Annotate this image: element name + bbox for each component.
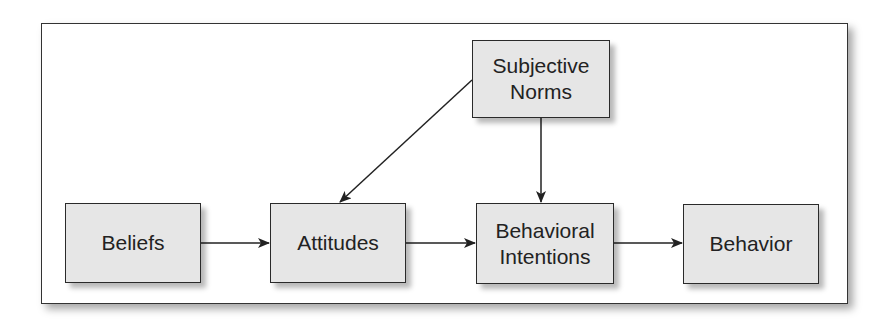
node-label: Beliefs (101, 230, 164, 256)
node-behavioral-intentions: Behavioral Intentions (476, 203, 614, 284)
node-subjective-norms: Subjective Norms (472, 40, 610, 118)
node-label: Behavioral Intentions (495, 218, 594, 270)
node-attitudes: Attitudes (270, 203, 406, 283)
node-beliefs: Beliefs (65, 203, 201, 283)
node-behavior: Behavior (683, 204, 819, 284)
node-label: Subjective Norms (493, 53, 590, 105)
node-label: Behavior (710, 231, 793, 257)
node-label: Attitudes (297, 230, 379, 256)
